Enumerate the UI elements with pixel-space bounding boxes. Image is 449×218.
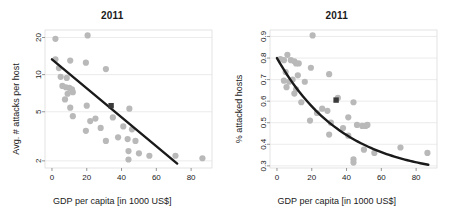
data-point <box>199 155 205 161</box>
svg-text:20: 20 <box>34 32 43 41</box>
data-point <box>353 122 359 128</box>
data-point <box>103 66 109 72</box>
data-point <box>115 134 121 140</box>
data-point <box>65 91 71 97</box>
data-point <box>103 138 109 144</box>
svg-text:0.6: 0.6 <box>259 95 268 107</box>
svg-text:0.7: 0.7 <box>259 73 268 85</box>
data-point <box>146 153 152 159</box>
svg-text:20: 20 <box>82 173 91 182</box>
data-point <box>126 106 132 112</box>
svg-text:60: 60 <box>376 173 385 182</box>
data-point <box>125 156 131 162</box>
svg-text:40: 40 <box>117 173 126 182</box>
data-point <box>307 65 313 71</box>
svg-text:0.3: 0.3 <box>259 160 268 172</box>
data-point <box>350 160 356 166</box>
svg-text:80: 80 <box>187 173 196 182</box>
svg-text:0.8: 0.8 <box>259 52 268 64</box>
data-point <box>64 75 70 81</box>
highlighted-country-marker <box>108 103 113 108</box>
data-point <box>120 123 126 129</box>
data-point <box>280 57 286 63</box>
data-point <box>84 103 90 109</box>
data-point <box>125 148 131 154</box>
highlighted-country-marker <box>333 97 338 102</box>
svg-text:40: 40 <box>342 173 351 182</box>
data-point <box>70 113 76 119</box>
left-chart-plot-area: 251020020406080 <box>0 0 225 218</box>
data-point <box>62 96 68 102</box>
data-point <box>309 32 315 38</box>
data-point <box>110 114 116 120</box>
svg-text:0: 0 <box>50 173 55 182</box>
data-point <box>306 117 312 123</box>
data-point <box>85 32 91 38</box>
data-point <box>326 71 332 77</box>
svg-text:20: 20 <box>307 173 316 182</box>
svg-text:60: 60 <box>152 173 161 182</box>
left-chart-panel: 2011 Avg. # attacks per host GDP per cap… <box>0 0 225 218</box>
data-point <box>83 128 89 134</box>
data-point <box>284 52 290 58</box>
data-point <box>397 144 403 150</box>
data-point <box>136 150 142 156</box>
data-point <box>98 125 104 131</box>
right-chart-plot-area: 0.30.40.50.60.70.80.9020406080 <box>225 0 449 218</box>
svg-text:0.4: 0.4 <box>259 138 268 150</box>
data-point <box>58 74 64 80</box>
data-point <box>291 91 297 97</box>
data-point <box>280 78 286 84</box>
data-point <box>345 114 351 120</box>
data-point <box>364 122 370 128</box>
data-point <box>326 131 332 137</box>
data-point <box>283 84 289 90</box>
data-point <box>67 105 73 111</box>
data-point <box>172 153 178 159</box>
svg-text:2: 2 <box>34 158 43 163</box>
data-point <box>67 57 73 63</box>
data-point <box>301 79 307 85</box>
data-point <box>92 116 98 122</box>
data-point <box>83 60 89 66</box>
data-point <box>70 89 76 95</box>
data-point <box>424 150 430 156</box>
svg-text:0.9: 0.9 <box>259 30 268 42</box>
data-point <box>360 147 366 153</box>
svg-text:5: 5 <box>34 109 43 114</box>
data-point <box>324 108 330 114</box>
data-point <box>125 136 131 142</box>
svg-text:10: 10 <box>34 70 43 79</box>
two-panel-scatter-figure: 2011 Avg. # attacks per host GDP per cap… <box>0 0 449 218</box>
right-chart-panel: 2011 % attacked hosts GDP per capita [in… <box>225 0 449 218</box>
svg-text:0.5: 0.5 <box>259 117 268 129</box>
data-point <box>294 72 300 78</box>
svg-text:0: 0 <box>274 173 279 182</box>
data-point <box>132 138 138 144</box>
data-point <box>298 99 304 105</box>
svg-text:80: 80 <box>411 173 420 182</box>
data-point <box>52 36 58 42</box>
data-point <box>350 99 356 105</box>
data-point <box>295 60 301 66</box>
